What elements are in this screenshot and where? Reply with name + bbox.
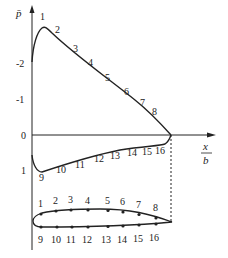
- curve-point-label: 8: [152, 106, 157, 117]
- curve-point-label: 3: [73, 43, 78, 54]
- curve-point-label: 6: [124, 86, 129, 97]
- airfoil-point-label: 5: [105, 195, 110, 206]
- airfoil-outline: [33, 209, 172, 227]
- y-axis-label: p̄: [15, 7, 22, 19]
- airfoil-point-label: 4: [85, 195, 90, 206]
- pressure-distribution-diagram: p̄ x b -2 -1 0 1 1 2 3 4 5 6 7 8 9 10 11…: [0, 0, 228, 258]
- curve-point-label: 9: [39, 172, 44, 183]
- curve-point-label: 2: [55, 24, 60, 35]
- curve-point-label: 14: [127, 147, 137, 158]
- airfoil-point-label: 13: [101, 234, 111, 245]
- airfoil-point-label: 3: [68, 194, 73, 205]
- airfoil-point-label: 10: [51, 234, 61, 245]
- airfoil-point-label: 2: [53, 195, 58, 206]
- curve-point-label: 12: [94, 153, 104, 164]
- y-tick-label: 1: [21, 165, 26, 176]
- curve-point-label: 4: [88, 57, 93, 68]
- airfoil-point-label: 7: [136, 199, 141, 210]
- curve-point-label: 11: [75, 159, 85, 170]
- airfoil-point-label: 9: [38, 234, 43, 245]
- curve-point-label: 10: [56, 164, 66, 175]
- y-axis-arrow-icon: [30, 5, 35, 13]
- airfoil-point-label: 1: [38, 198, 43, 209]
- curve-point-label: 16: [155, 145, 165, 156]
- curve-point-label: 5: [105, 72, 110, 83]
- x-axis-label-numerator: x: [202, 140, 208, 152]
- airfoil-point-label: 6: [120, 196, 125, 207]
- curve-point-label: 1: [40, 11, 45, 22]
- x-axis-arrow-icon: [207, 133, 216, 138]
- curve-point-label: 15: [142, 146, 152, 157]
- airfoil-point-label: 11: [66, 234, 76, 245]
- y-tick-label: 0: [21, 130, 26, 141]
- airfoil-lower-points: [39, 222, 157, 228]
- airfoil-point-label: 14: [117, 234, 127, 245]
- y-tick-label: -1: [16, 94, 24, 105]
- curve-point-label: 13: [110, 150, 120, 161]
- airfoil-upper-points: [39, 208, 157, 219]
- y-tick-label: -2: [16, 58, 24, 69]
- x-axis-label-denominator: b: [203, 154, 209, 166]
- airfoil-point-label: 15: [133, 233, 143, 244]
- curve-point-label: 7: [140, 97, 145, 108]
- airfoil-point-label: 12: [82, 234, 92, 245]
- upper-surface-pressure-curve: [32, 27, 171, 135]
- airfoil-point-label: 16: [149, 232, 159, 243]
- airfoil-point-label: 8: [153, 202, 158, 213]
